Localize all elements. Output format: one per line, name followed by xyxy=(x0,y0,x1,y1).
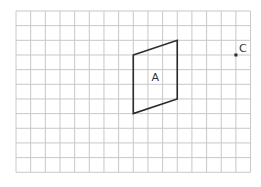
point-c-marker xyxy=(234,53,237,56)
shape-label-a: A xyxy=(152,71,160,84)
point-label-c: C xyxy=(239,42,247,55)
grid-diagram: A C xyxy=(0,0,261,187)
